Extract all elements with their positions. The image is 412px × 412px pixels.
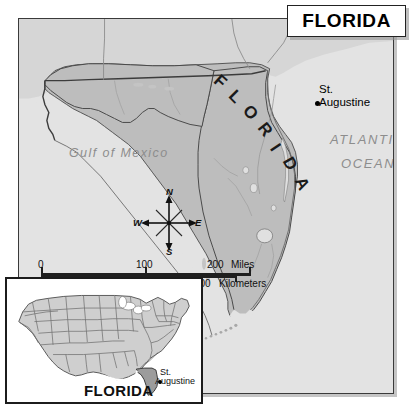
- compass-rose: N S E W: [131, 187, 207, 259]
- lake-small-2: [243, 167, 249, 174]
- map-page: F L O R I D A Gulf of Mexico ATLANTIC OC…: [0, 0, 412, 412]
- lake-small-1: [250, 184, 257, 193]
- scale-label-miles-100: 100: [136, 259, 153, 270]
- compass-label-north: N: [166, 186, 173, 197]
- scale-label-miles-0: 0: [38, 259, 44, 270]
- city-marker-st-augustine[interactable]: [315, 101, 320, 106]
- compass-label-south: S: [166, 246, 172, 257]
- map-title: FLORIDA: [302, 11, 391, 30]
- lake-small-3: [271, 205, 276, 211]
- compass-label-east: E: [195, 217, 201, 228]
- compass-label-west: W: [133, 217, 142, 228]
- inset-locator-map: St. Augustine FLORIDA: [5, 277, 203, 404]
- inset-map-graphic: [7, 279, 201, 402]
- scale-label-miles-200: 200: [207, 259, 224, 270]
- inset-city-marker-st-augustine[interactable]: [158, 380, 162, 384]
- lake-okeechobee: [257, 229, 273, 243]
- map-title-plaque: FLORIDA: [287, 5, 406, 37]
- scale-unit-miles: Miles: [231, 259, 254, 270]
- compass-center: [167, 221, 171, 225]
- scale-unit-km: Kilometers: [219, 278, 266, 289]
